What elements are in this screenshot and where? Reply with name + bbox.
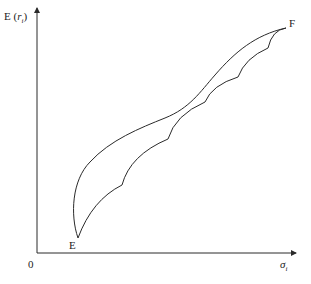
x-axis-label: σi	[280, 259, 287, 273]
y-axis-label: E (ri)	[4, 11, 27, 25]
point-e-label: E	[69, 240, 76, 251]
point-f-label: F	[289, 18, 295, 29]
lower-curve	[78, 28, 286, 238]
upper-curve	[74, 28, 286, 238]
origin-label: 0	[28, 259, 34, 270]
diagram-canvas	[0, 0, 311, 284]
